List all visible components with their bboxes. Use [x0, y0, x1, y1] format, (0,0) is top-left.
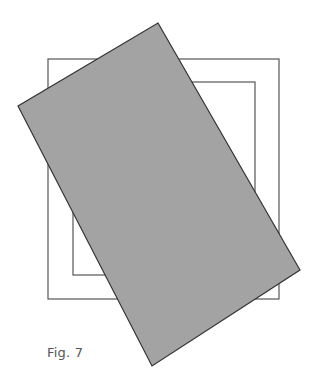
figure-caption: Fig. 7 — [47, 345, 83, 360]
rotated-grey-rectangle — [18, 23, 300, 366]
figure-canvas — [0, 0, 317, 384]
